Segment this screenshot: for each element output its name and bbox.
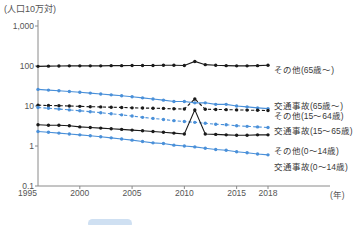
data-point	[36, 88, 39, 91]
data-point	[172, 143, 175, 146]
data-point	[47, 64, 50, 67]
x-tick-4: 2015	[227, 188, 246, 198]
data-point	[193, 101, 196, 104]
data-point	[141, 106, 144, 109]
data-point	[204, 132, 207, 135]
data-point	[89, 134, 92, 137]
x-tick-3: 2010	[175, 188, 194, 198]
data-point	[214, 108, 217, 111]
x-tick-0: 1995	[18, 188, 37, 198]
data-point	[245, 105, 248, 108]
x-tick-5: 2018	[259, 188, 278, 198]
data-point	[162, 107, 165, 110]
data-point	[47, 107, 50, 110]
data-point	[266, 133, 269, 136]
legend-label-0: その他(65歳〜)	[274, 66, 334, 75]
data-point	[214, 64, 217, 67]
series-5	[36, 130, 269, 157]
data-point	[141, 64, 144, 67]
data-point	[204, 122, 207, 125]
data-point	[245, 134, 248, 137]
data-point	[193, 145, 196, 148]
data-point	[109, 93, 112, 96]
data-point	[214, 123, 217, 126]
data-point	[57, 64, 60, 67]
data-point	[78, 105, 81, 108]
data-point	[162, 131, 165, 134]
data-point	[120, 137, 123, 140]
data-point	[183, 144, 186, 147]
x-axis-tick-labels: 199520002005201020152018	[0, 188, 361, 202]
data-point	[68, 108, 71, 111]
data-point	[36, 65, 39, 68]
data-point	[214, 133, 217, 136]
data-point	[183, 132, 186, 135]
series-layer	[36, 60, 269, 157]
data-point	[204, 63, 207, 66]
data-point	[183, 100, 186, 103]
data-point	[172, 100, 175, 103]
legend-label-1: 交通事故(65歳〜)	[274, 102, 343, 111]
data-point	[235, 150, 238, 153]
data-point	[36, 130, 39, 133]
data-point	[68, 64, 71, 67]
data-point	[172, 119, 175, 122]
data-point	[193, 60, 196, 63]
data-point	[183, 120, 186, 123]
data-point	[193, 108, 196, 111]
data-point	[78, 64, 81, 67]
data-point	[57, 104, 60, 107]
data-point	[99, 135, 102, 138]
data-point	[68, 132, 71, 135]
data-point	[235, 108, 238, 111]
data-point	[256, 133, 259, 136]
data-point	[130, 128, 133, 131]
data-point	[109, 106, 112, 109]
data-point	[78, 91, 81, 94]
data-point	[120, 64, 123, 67]
data-point	[99, 92, 102, 95]
legend-label-2: その他(15〜64歳)	[274, 112, 344, 121]
data-point	[162, 118, 165, 121]
data-point	[99, 111, 102, 114]
data-point	[151, 141, 154, 144]
data-point	[130, 106, 133, 109]
data-point	[256, 152, 259, 155]
data-point	[245, 108, 248, 111]
data-point	[120, 94, 123, 97]
data-point	[162, 64, 165, 67]
data-point	[89, 64, 92, 67]
x-tick-2: 2005	[123, 188, 142, 198]
data-point	[224, 108, 227, 111]
series-4	[36, 108, 269, 137]
data-point	[89, 126, 92, 129]
data-point	[57, 131, 60, 134]
data-point	[151, 130, 154, 133]
data-point	[235, 134, 238, 137]
data-point	[36, 123, 39, 126]
data-point	[109, 64, 112, 67]
data-point	[245, 151, 248, 154]
data-point	[109, 127, 112, 130]
data-point	[109, 136, 112, 139]
data-point	[172, 131, 175, 134]
data-point	[130, 95, 133, 98]
data-point	[235, 124, 238, 127]
data-point	[120, 106, 123, 109]
data-point	[193, 121, 196, 124]
data-point	[172, 107, 175, 110]
data-point	[47, 124, 50, 127]
data-point	[266, 64, 269, 67]
data-point	[89, 105, 92, 108]
legend-label-5: 交通事故(0〜14歳)	[274, 163, 348, 172]
data-point	[183, 107, 186, 110]
data-point	[224, 133, 227, 136]
data-point	[78, 109, 81, 112]
data-point	[89, 110, 92, 113]
data-point	[224, 64, 227, 67]
data-point	[214, 148, 217, 151]
data-point	[120, 113, 123, 116]
x-axis-unit-label: (年)	[330, 188, 345, 200]
data-point	[89, 91, 92, 94]
data-point	[162, 142, 165, 145]
